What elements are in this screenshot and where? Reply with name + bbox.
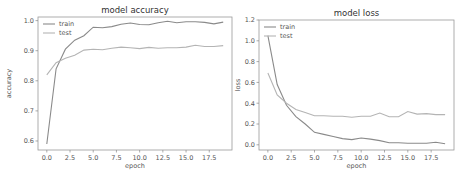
legend-train: train <box>280 23 295 31</box>
y-tick-label: 1.2 <box>245 16 255 24</box>
y-tick-label: 0.0 <box>245 141 255 149</box>
series-test-line <box>47 45 223 75</box>
x-tick-label: 5.0 <box>88 154 98 162</box>
x-axis-label: epoch <box>125 162 145 170</box>
x-tick-label: 7.5 <box>111 154 121 162</box>
y-tick-label: 1.0 <box>245 37 255 45</box>
y-tick-label: 0.7 <box>24 107 34 115</box>
legend-train: train <box>59 20 74 28</box>
y-axis-label: accuracy <box>5 69 13 98</box>
x-tick-label: 2.5 <box>65 154 75 162</box>
x-axis-label: epoch <box>347 162 367 170</box>
x-tick-label: 5.0 <box>309 154 319 162</box>
y-tick-label: 0.8 <box>24 77 34 85</box>
y-tick-label: 0.6 <box>24 137 34 145</box>
y-tick-label: 0.8 <box>245 58 255 66</box>
series-train-line <box>47 21 223 144</box>
x-tick-label: 10.0 <box>354 154 368 162</box>
y-tick-label: 1.0 <box>24 17 34 25</box>
x-tick-label: 0.0 <box>42 154 52 162</box>
y-axis-label: loss <box>234 78 242 91</box>
chart-title: model loss <box>334 8 380 18</box>
x-tick-label: 0.0 <box>263 154 273 162</box>
y-tick-label: 0.9 <box>24 47 34 55</box>
loss-chart: model loss0.02.55.07.510.012.515.017.50.… <box>234 8 454 170</box>
series-train-line <box>268 36 445 144</box>
series-test-line <box>268 73 445 117</box>
legend-test: test <box>280 32 293 40</box>
x-tick-label: 12.5 <box>156 154 170 162</box>
x-tick-label: 2.5 <box>286 154 296 162</box>
x-tick-label: 10.0 <box>132 154 146 162</box>
charts: model accuracy0.02.55.07.510.012.515.017… <box>0 0 469 177</box>
x-tick-label: 17.5 <box>202 154 216 162</box>
chart-title: model accuracy <box>101 5 169 15</box>
x-tick-label: 17.5 <box>424 154 438 162</box>
x-tick-label: 15.0 <box>401 154 415 162</box>
y-tick-label: 0.4 <box>245 100 255 108</box>
accuracy-chart: model accuracy0.02.55.07.510.012.515.017… <box>5 5 232 170</box>
y-tick-label: 0.6 <box>245 79 255 87</box>
legend-test: test <box>59 29 72 37</box>
x-tick-label: 12.5 <box>377 154 391 162</box>
x-tick-label: 15.0 <box>179 154 193 162</box>
x-tick-label: 7.5 <box>333 154 343 162</box>
y-tick-label: 0.2 <box>245 120 255 128</box>
